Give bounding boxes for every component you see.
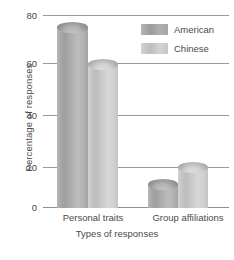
bar-chart: Percentage of responses 80 60 40 20 0 — [0, 0, 234, 260]
x-tick-label-group-affiliations: Group affiliations — [123, 212, 234, 223]
gridline-80: 80 — [43, 15, 229, 16]
y-tick-label-80: 80 — [26, 10, 37, 21]
bar-cap — [57, 22, 88, 33]
legend: American Chinese — [141, 22, 214, 60]
legend-item-chinese: Chinese — [141, 41, 214, 56]
american-swatch-icon — [141, 24, 168, 35]
y-tick-label-40: 40 — [26, 110, 37, 121]
bar-cap — [88, 59, 118, 70]
bar-cap — [178, 162, 208, 173]
bar-body — [88, 64, 118, 208]
bar-cap — [148, 179, 178, 190]
y-tick-label-20: 20 — [26, 162, 37, 173]
bar-body — [178, 167, 208, 208]
bar-body — [57, 27, 88, 208]
chinese-swatch-icon — [141, 43, 168, 54]
bar-american-personal-traits — [57, 22, 88, 208]
legend-item-american: American — [141, 22, 214, 37]
legend-label-american: American — [174, 24, 214, 35]
bar-american-group-affiliations — [148, 179, 178, 208]
legend-label-chinese: Chinese — [174, 43, 209, 54]
y-tick-label-0: 0 — [32, 202, 37, 213]
y-tick-label-60: 60 — [26, 58, 37, 69]
bar-chinese-personal-traits — [88, 59, 118, 208]
x-axis-title: Types of responses — [0, 228, 234, 239]
bar-chinese-group-affiliations — [178, 162, 208, 208]
